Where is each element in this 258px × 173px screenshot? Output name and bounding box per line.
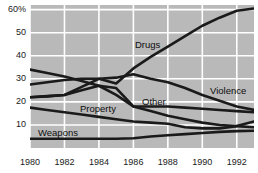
series-label-violence: Violence	[210, 86, 246, 96]
line-chart: 102030405060% 19801982198419861988199019…	[0, 0, 258, 173]
series-label-weapons: Weapons	[38, 128, 78, 138]
series-label-drugs: Drugs	[135, 40, 160, 50]
series-label-other: Other	[142, 97, 166, 107]
series-labels: DrugsViolenceOtherPropertyWeapons	[0, 0, 258, 173]
series-label-property: Property	[80, 104, 116, 114]
